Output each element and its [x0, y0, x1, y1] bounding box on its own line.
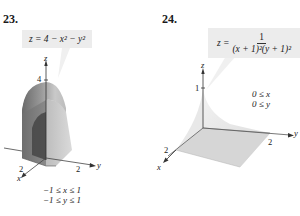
domain-x-23: −1 ≤ x ≤ 1 [43, 185, 81, 195]
domain-23: −1 ≤ x ≤ 1 −1 ≤ y ≤ 1 [43, 185, 81, 205]
y-tick-label-24: 2 [268, 137, 272, 147]
y-tick-label-23: 2 [76, 164, 80, 174]
solid-right-face [46, 100, 72, 166]
domain-24: 0 ≤ x 0 ≤ y [252, 89, 270, 109]
callout-pointer [206, 56, 236, 90]
z-axis-label-23: z [44, 53, 47, 63]
equation-fraction-24: 1 (x + 1)²(y + 1)² [232, 32, 291, 55]
z-tick-label-23: 4 [37, 74, 41, 84]
x-axis-label-24: x [157, 162, 161, 172]
x-axis-label-23: x [17, 173, 21, 183]
z-tick-label-24: 1 [195, 83, 199, 93]
y-axis-label-23: y [97, 160, 101, 170]
equation-numerator-24: 1 [257, 32, 266, 44]
figure-23-graphic [4, 48, 96, 178]
equation-box-24: z = 1 (x + 1)²(y + 1)² [208, 28, 300, 58]
exercise-number-24: 24. [162, 12, 177, 27]
exercise-number-23: 23. [3, 12, 18, 27]
equation-denominator-24: (x + 1)²(y + 1)² [232, 44, 291, 55]
equation-lhs-24: z = [217, 38, 229, 48]
z-axis-label-24: z [201, 60, 204, 70]
callout-pointer [58, 48, 70, 78]
figure-24-graphic [163, 56, 294, 167]
domain-y-23: −1 ≤ y ≤ 1 [43, 195, 81, 205]
domain-y-24: 0 ≤ y [252, 99, 270, 109]
domain-x-24: 0 ≤ x [252, 89, 270, 99]
y-axis-label-24: y [294, 128, 298, 138]
equation-box-23: z = 4 − x² − y² [22, 30, 92, 48]
x-tick-label-24: 2 [164, 145, 168, 155]
